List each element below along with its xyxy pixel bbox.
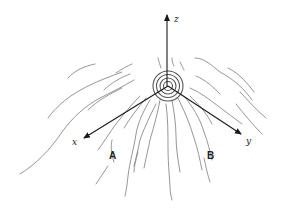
z-axis-label: z <box>173 14 179 24</box>
coordinate-diagram: z x y A B <box>0 0 284 209</box>
x-axis <box>84 86 168 138</box>
y-axis-label: y <box>245 136 252 146</box>
x-axis-label: x <box>72 137 77 147</box>
region-a-label: A <box>109 150 116 161</box>
grain-lines <box>20 58 266 200</box>
region-b-label: B <box>207 150 214 161</box>
y-axis <box>168 86 241 134</box>
